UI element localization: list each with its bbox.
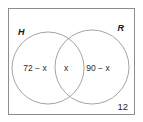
region-h-only-label: 72 − x [23,63,47,73]
universal-set-rectangle [9,9,135,115]
set-label-r: R [118,23,125,33]
venn-diagram-canvas: H R 72 − x x 90 − x 12 [0,0,143,122]
region-outside-count-label: 12 [117,101,128,112]
region-r-only-label: 90 − x [86,63,110,73]
set-label-h: H [18,27,25,37]
venn-diagram: H R 72 − x x 90 − x 12 [0,0,143,122]
